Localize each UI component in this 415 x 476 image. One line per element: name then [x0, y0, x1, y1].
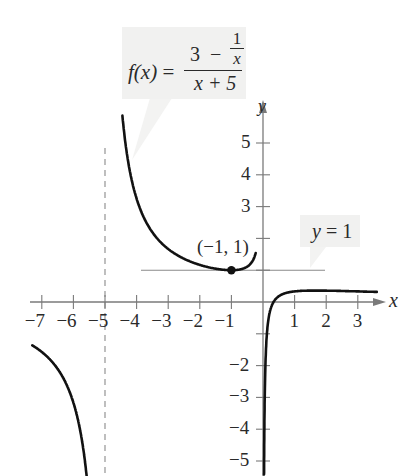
axes: [30, 100, 386, 476]
y-tick-label: −4: [229, 417, 249, 439]
formula-denominator: x + 5: [194, 72, 236, 95]
x-tick-label: −6: [56, 310, 76, 332]
x-tick-label: −5: [88, 310, 108, 332]
formula-callout: f(x) = 3 − 1 x x + 5: [122, 27, 246, 99]
y-tick-label: 3: [241, 195, 251, 217]
asymptote-callout-pointer: [310, 247, 326, 268]
x-tick-label: −2: [183, 310, 203, 332]
x-tick-label: 3: [353, 310, 363, 332]
point-label: (−1, 1): [197, 236, 249, 258]
x-tick-label: −1: [214, 310, 234, 332]
curve-branch: [32, 345, 86, 476]
x-tick-label: 1: [290, 310, 300, 332]
x-tick-label: 2: [321, 310, 331, 332]
function-curves: [32, 116, 377, 476]
x-tick-label: −7: [25, 310, 45, 332]
inner-fraction: 1 x: [230, 30, 244, 67]
x-tick-label: −4: [120, 310, 140, 332]
y-tick-label: 4: [241, 163, 251, 185]
point-marker-minus1-1: [227, 266, 235, 274]
x-axis-label: x: [389, 289, 398, 312]
y-axis-label: y: [258, 96, 266, 117]
asymptote-label-callout: y = 1: [300, 215, 360, 247]
formula-lhs: f(x) =: [128, 60, 174, 85]
formula-callout-pointer: [132, 98, 172, 160]
x-tick-label: −3: [151, 310, 171, 332]
y-tick-label: −3: [229, 385, 249, 407]
y-tick-label: 5: [241, 131, 251, 153]
y-tick-label: −5: [229, 449, 249, 471]
y-tick-label: −2: [229, 354, 249, 376]
